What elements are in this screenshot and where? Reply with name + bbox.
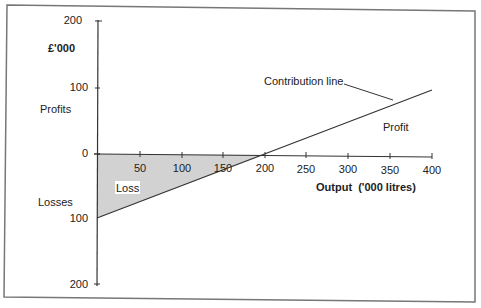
x-axis-label: Output ('000 litres) (316, 181, 416, 193)
y-tick-label-neg100: 100 (70, 212, 88, 224)
y-axis-label: £'000 (48, 42, 75, 54)
svg-text:300: 300 (339, 163, 357, 175)
y-tick-label-200: 200 (64, 14, 82, 26)
contribution-leader (344, 84, 393, 100)
losses-label: Losses (38, 196, 73, 208)
svg-text:100: 100 (173, 162, 191, 174)
profits-label: Profits (40, 103, 72, 115)
y-tick-label-neg200: 200 (70, 278, 88, 290)
loss-label: Loss (116, 182, 140, 194)
svg-text:50: 50 (134, 162, 146, 174)
y-axis (97, 20, 98, 286)
break-even-chart: 200 100 0 100 200 £'000 Profits Losses 5… (0, 0, 481, 308)
svg-text:350: 350 (381, 164, 399, 176)
svg-text:400: 400 (423, 164, 441, 176)
svg-text:200: 200 (256, 162, 274, 174)
contribution-line-label: Contribution line (264, 75, 344, 87)
y-tick-label-0: 0 (82, 147, 88, 159)
x-tick-labels: 50 100 150 200 250 300 350 400 (134, 162, 441, 176)
svg-text:150: 150 (214, 162, 232, 174)
svg-text:250: 250 (297, 163, 315, 175)
y-tick-label-100: 100 (70, 81, 88, 93)
profit-label: Profit (383, 121, 409, 133)
